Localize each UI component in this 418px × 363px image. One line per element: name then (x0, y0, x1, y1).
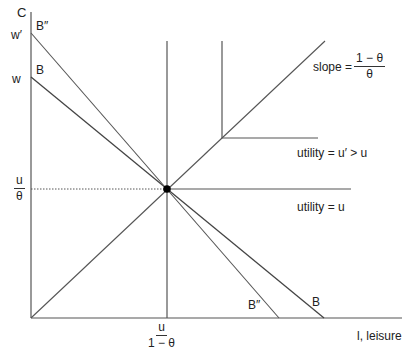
x-axis-label: l, leisure (357, 330, 402, 342)
frac-num: 1 − θ (354, 52, 385, 67)
y-axis-label: C (17, 7, 26, 19)
budget-line-Bpp (31, 33, 279, 318)
frac-den: θ (16, 189, 23, 203)
slope-annotation: slope = 1 − θ θ (313, 52, 385, 81)
budget-B-label-top: B (36, 64, 44, 76)
budget-Bpp-label-top: B″ (36, 20, 48, 32)
x-fraction-u-over-1-minus-theta: u 1 − θ (148, 321, 175, 350)
frac-den: 1 − θ (148, 336, 175, 350)
optimum-point (163, 185, 171, 193)
slope-fraction: 1 − θ θ (354, 52, 385, 81)
frac-num: u (156, 321, 167, 336)
w-prime-tick: w′ (11, 29, 22, 41)
frac-num: u (14, 174, 25, 189)
budget-B-label-bottom: B (312, 296, 320, 308)
frac-den: θ (366, 67, 373, 81)
utility-u-label: utility = u (297, 201, 345, 213)
utility-uprime-label: utility = u′ > u (297, 147, 367, 159)
expansion-ray (31, 41, 325, 318)
slope-label: slope = (313, 60, 352, 74)
y-fraction-u-over-theta: u θ (14, 174, 25, 203)
budget-Bpp-label-bottom: B″ (248, 299, 260, 311)
budget-line-B (31, 77, 324, 318)
w-tick: w (12, 73, 21, 85)
